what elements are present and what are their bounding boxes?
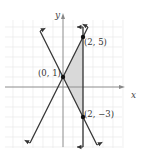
x-axis-label: x — [131, 90, 136, 100]
point-label-2-5: (2, 5) — [84, 37, 107, 47]
y-axis-label: y — [54, 10, 61, 20]
point-label-0-1: (0, 1) — [38, 68, 61, 78]
x-axis-arrow-icon — [119, 85, 125, 89]
line-arrow-icon — [77, 145, 81, 150]
point-label-2-neg3: (2, −3) — [84, 109, 114, 119]
y-axis-arrow-icon — [61, 13, 65, 19]
line-arrow-icon — [77, 25, 81, 30]
point-marker — [61, 75, 65, 79]
coordinate-graph: x y (0, 1) (2, 5) (2, −3) — [0, 0, 145, 162]
graph-line-1 — [40, 31, 97, 145]
